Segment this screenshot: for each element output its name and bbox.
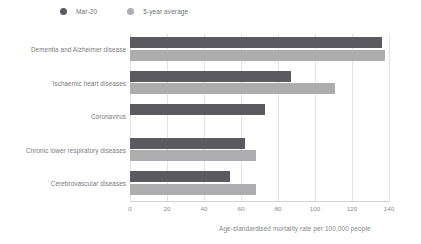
bar xyxy=(130,83,335,94)
x-tick-label: 40 xyxy=(201,205,208,212)
bar xyxy=(130,171,230,182)
bar-group xyxy=(130,171,389,195)
x-tick-label: 60 xyxy=(238,205,245,212)
circle-icon xyxy=(127,8,134,15)
category-label: Coronavirus xyxy=(0,113,126,120)
bar xyxy=(130,104,265,115)
category-label: Ischaemic heart diseases xyxy=(0,80,126,87)
bar xyxy=(130,184,256,195)
x-tick-label: 140 xyxy=(384,205,394,212)
x-tick-label: 120 xyxy=(347,205,357,212)
legend-item-mar-20[interactable]: Mar-20 xyxy=(60,8,97,15)
bar-group xyxy=(130,71,389,95)
bar xyxy=(130,150,256,161)
category-label: Cerebrovascular diseases xyxy=(0,180,126,187)
chart-legend: Mar-20 5-year average xyxy=(60,8,188,15)
axis-baseline xyxy=(130,201,389,202)
x-axis-caption: Age-standardised mortality rate per 100,… xyxy=(219,225,371,232)
x-tick-label: 20 xyxy=(164,205,171,212)
x-tick-label: 80 xyxy=(275,205,282,212)
x-axis-ticks: 020406080100120140 xyxy=(130,205,389,217)
bar-group xyxy=(130,138,389,162)
bar xyxy=(130,138,245,149)
category-label: Chronic lower respiratory diseases xyxy=(0,147,126,154)
bar xyxy=(130,50,385,61)
gridline xyxy=(389,34,390,202)
bar-chart: Mar-20 5-year average Dementia and Alzhe… xyxy=(0,0,421,244)
bar-group xyxy=(130,37,389,61)
circle-icon xyxy=(60,8,67,15)
legend-item-5-year-average[interactable]: 5-year average xyxy=(127,8,188,15)
category-axis-labels: Dementia and Alzheimer diseaseIschaemic … xyxy=(0,34,126,202)
x-tick-label: 100 xyxy=(310,205,320,212)
bar xyxy=(130,71,291,82)
legend-label: Mar-20 xyxy=(76,8,97,15)
plot-area xyxy=(130,34,389,202)
category-label: Dementia and Alzheimer disease xyxy=(0,46,126,53)
bar xyxy=(130,37,382,48)
x-tick-label: 0 xyxy=(128,205,131,212)
legend-label: 5-year average xyxy=(143,8,188,15)
bar-group xyxy=(130,104,389,128)
